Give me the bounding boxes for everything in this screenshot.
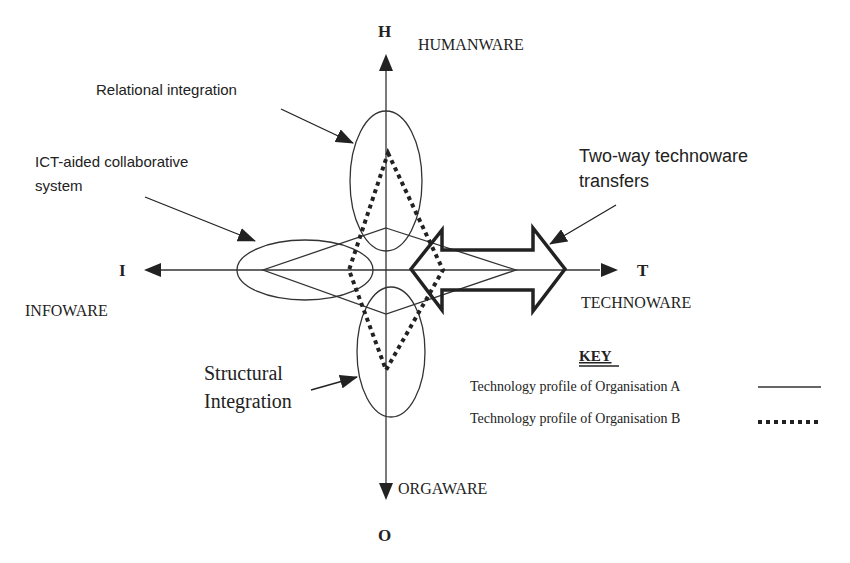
- axis-name-infoware: INFOWARE: [25, 302, 108, 319]
- arrowhead-left-icon: [144, 263, 161, 277]
- axis-letter-i: I: [119, 261, 126, 280]
- callout-twoway-line1: Two-way technoware: [579, 146, 748, 166]
- ict-pointer: [145, 197, 255, 241]
- arrowhead-right-icon: [601, 263, 618, 277]
- callout-structural-line2: Integration: [204, 390, 292, 413]
- arrowhead-up-icon: [379, 54, 393, 71]
- callout-twoway-line2: transfers: [579, 171, 649, 191]
- axis-name-orgaware: ORGAWARE: [398, 480, 487, 497]
- callout-arrows: [145, 109, 616, 390]
- axis-letter-o: O: [378, 526, 391, 545]
- structural-integration-ellipse: [357, 287, 425, 417]
- organisation-b-profile: [349, 153, 443, 370]
- axis-arrowheads: [144, 54, 618, 500]
- structural-pointer: [311, 377, 357, 390]
- legend-title: KEY: [579, 348, 612, 364]
- axis-letter-h: H: [378, 22, 391, 41]
- legend-item-org-a-label: Technology profile of Organisation A: [470, 379, 681, 394]
- callout-structural-line1: Structural: [204, 362, 283, 384]
- arrowhead-down-icon: [379, 483, 393, 500]
- axis-name-humanware: HUMANWARE: [418, 36, 524, 53]
- callout-ict-line2: system: [35, 177, 83, 194]
- twoway-pointer: [550, 205, 616, 244]
- callout-ict-line1: ICT-aided collaborative: [35, 153, 188, 170]
- technology-profile-diagram: H HUMANWARE I INFOWARE T TECHNOWARE ORGA…: [0, 0, 850, 563]
- organisation-a-profile: [263, 228, 516, 314]
- axis-name-technoware: TECHNOWARE: [581, 294, 691, 311]
- legend: KEY Technology profile of Organisation A…: [470, 348, 821, 426]
- axis-letter-t: T: [637, 261, 649, 280]
- legend-item-org-b-label: Technology profile of Organisation B: [470, 411, 680, 426]
- callout-relational-integration: Relational integration: [96, 81, 237, 98]
- relational-pointer: [281, 109, 353, 143]
